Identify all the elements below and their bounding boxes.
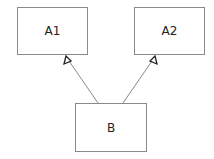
class-label: A1 [45, 24, 61, 38]
class-label: A2 [162, 24, 178, 38]
class-box-a1[interactable]: A1 [17, 7, 88, 55]
edge-b-to-a1[interactable] [64, 56, 98, 103]
class-box-a2[interactable]: A2 [134, 7, 205, 55]
edge-b-to-a2[interactable] [123, 56, 157, 103]
class-label: B [107, 121, 115, 135]
class-box-b[interactable]: B [75, 103, 147, 152]
